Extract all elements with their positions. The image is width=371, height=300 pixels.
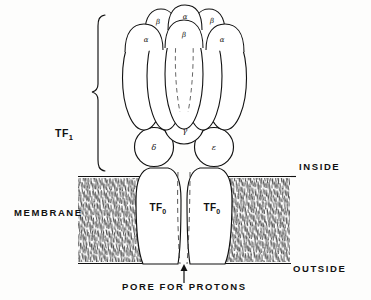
subunit-label-gamma: γ [183,126,188,135]
tfo-right-label: TF0 [203,202,220,215]
outside-label: OUTSIDE [293,263,346,274]
pore-for-protons-label: PORE FOR PROTONS [122,281,247,292]
tfo-left-label-subscript: 0 [162,208,166,215]
tf1-label-subscript: 1 [69,133,73,142]
subunit-label-beta-top-left: β [156,18,160,26]
subunit-label-alpha-front-right: α [220,36,225,44]
tf1-bracket [92,15,105,171]
tf0-sector-right [187,168,232,264]
subunit-label-delta: δ [152,143,157,152]
membrane-label: MEMBRANE [14,207,83,218]
tfo-left-label: TF0 [149,202,166,215]
tf1-label-text: TF [55,127,69,139]
subunit-label-beta-front-mid: β [182,31,186,39]
tf1-label: TF1 [55,127,73,142]
subunit-label-alpha-front-left: α [144,36,149,44]
subunit-label-beta-top-right: β [210,17,214,25]
inside-label: INSIDE [299,161,340,172]
tfo-right-label-subscript: 0 [216,208,220,215]
figure-canvas: TF1 TF0 TF0 MEMBRANE INSIDE OUTSIDE PORE… [0,0,371,300]
tfo-right-label-text: TF [203,202,216,213]
tf0-sector-left [136,168,181,264]
tfo-left-label-text: TF [149,202,162,213]
subunit-label-epsilon: ε [212,143,216,152]
diagram-svg [0,0,371,300]
subunit-label-alpha-top-mid: α [183,13,188,21]
